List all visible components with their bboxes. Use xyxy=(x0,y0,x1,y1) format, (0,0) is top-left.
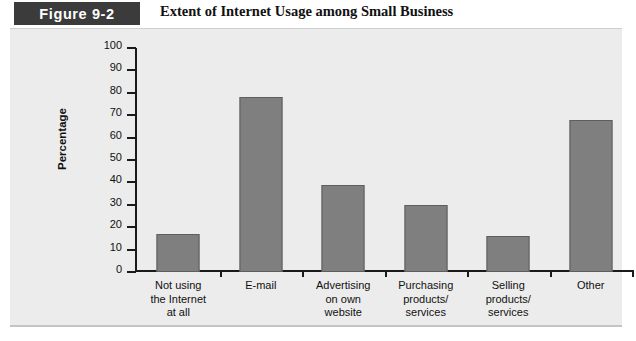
y-axis-tick-label: 30 xyxy=(110,196,122,208)
figure-title: Extent of Internet Usage among Small Bus… xyxy=(160,3,453,20)
plot-area: Percentage 1009080706050403020100 Not us… xyxy=(10,29,622,326)
bar[interactable] xyxy=(157,234,200,272)
category-label-line: on own xyxy=(302,293,385,307)
x-axis-category-label: Advertisingon ownwebsite xyxy=(302,279,385,320)
x-axis-tick-mark xyxy=(632,270,634,277)
category-label-line: products/ xyxy=(467,293,550,307)
bar-slot xyxy=(220,48,303,272)
bars-layer xyxy=(137,48,632,272)
category-label-line: Other xyxy=(550,279,633,293)
x-axis-category-label: E-mail xyxy=(220,279,303,293)
y-axis-tick-label: 50 xyxy=(110,151,122,163)
category-label-line: Purchasing xyxy=(385,279,468,293)
y-axis-tick-label: 70 xyxy=(110,106,122,118)
category-label-line: website xyxy=(302,306,385,320)
category-label-line: services xyxy=(385,306,468,320)
category-label-line: E-mail xyxy=(220,279,303,293)
category-label-line: products/ xyxy=(385,293,468,307)
x-axis-tick-mark xyxy=(220,270,222,277)
y-axis-tick-label: 80 xyxy=(110,84,122,96)
bar[interactable] xyxy=(487,236,530,272)
x-axis-category-label: Purchasingproducts/services xyxy=(385,279,468,320)
y-axis-tick-label: 100 xyxy=(104,39,122,51)
figure-number-badge: Figure 9-2 xyxy=(14,2,140,25)
y-axis-tick-label: 60 xyxy=(110,129,122,141)
bar[interactable] xyxy=(404,205,447,272)
category-label-line: services xyxy=(467,306,550,320)
bar-slot xyxy=(467,48,550,272)
x-axis-tick-mark xyxy=(385,270,387,277)
category-label-line: Selling xyxy=(467,279,550,293)
x-axis-tick-mark xyxy=(467,270,469,277)
y-axis-title: Percentage xyxy=(56,79,68,199)
y-axis-tick-label: 0 xyxy=(116,263,122,275)
bar-slot xyxy=(302,48,385,272)
figure-bottom-rule xyxy=(10,325,622,327)
bar-slot xyxy=(385,48,468,272)
chart-panel: Percentage 1009080706050403020100 Not us… xyxy=(10,28,622,326)
category-label-line: Not using xyxy=(137,279,220,293)
x-axis-category-label: Not usingthe Internetat all xyxy=(137,279,220,320)
y-axis-tick-label: 40 xyxy=(110,173,122,185)
category-label-line: the Internet xyxy=(137,293,220,307)
bar[interactable] xyxy=(322,185,365,272)
bar[interactable] xyxy=(569,120,612,272)
x-axis-tick-mark xyxy=(550,270,552,277)
figure-root: Figure 9-2 Extent of Internet Usage amon… xyxy=(0,0,636,341)
category-label-line: Advertising xyxy=(302,279,385,293)
y-axis-tick-label: 90 xyxy=(110,61,122,73)
category-label-line: at all xyxy=(137,306,220,320)
x-axis-tick-mark xyxy=(302,270,304,277)
x-axis-category-label: Sellingproducts/services xyxy=(467,279,550,320)
figure-header: Figure 9-2 Extent of Internet Usage amon… xyxy=(0,0,636,27)
bar[interactable] xyxy=(239,97,282,272)
y-axis-tick-label: 10 xyxy=(110,241,122,253)
x-axis-category-label: Other xyxy=(550,279,633,293)
y-axis-tick-label: 20 xyxy=(110,218,122,230)
bar-slot xyxy=(550,48,633,272)
bar-slot xyxy=(137,48,220,272)
